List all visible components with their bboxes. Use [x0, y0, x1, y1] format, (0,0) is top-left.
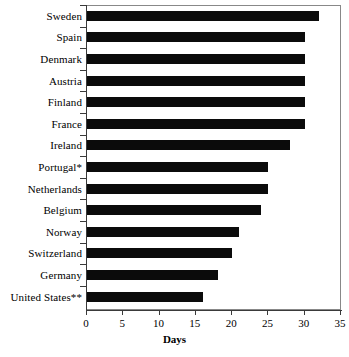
x-axis-tick-label: 10 [153, 317, 164, 330]
bar-category-label: Finland [48, 97, 82, 108]
y-axis-tick [80, 91, 86, 92]
x-axis-tick-label: 0 [83, 317, 89, 330]
y-axis-tick [80, 135, 86, 136]
x-axis-tick-label: 15 [189, 317, 200, 330]
bar [87, 76, 305, 86]
bar-row: Switzerland [0, 243, 349, 265]
bar-category-label: Ireland [50, 140, 82, 151]
y-axis-tick [80, 5, 86, 6]
bar-category-label: Switzerland [28, 248, 82, 259]
y-axis-tick [80, 221, 86, 222]
y-axis-tick [80, 199, 86, 200]
bar-chart: SwedenSpainDenmarkAustriaFinlandFranceIr… [0, 0, 349, 357]
bar-category-label: Norway [46, 226, 82, 237]
bar-row: Denmark [0, 48, 349, 70]
bar-category-label: Denmark [40, 53, 82, 64]
bar [87, 119, 305, 129]
x-axis-ticks [0, 310, 349, 311]
bar-row: United States** [0, 286, 349, 308]
bar [87, 184, 268, 194]
bar [87, 11, 319, 21]
y-axis-tick [80, 178, 86, 179]
bar-row: Sweden [0, 5, 349, 27]
bar-category-label: France [51, 118, 82, 129]
x-axis-tick [195, 310, 196, 315]
y-axis-tick [80, 156, 86, 157]
bar-category-label: Sweden [47, 10, 82, 21]
x-axis-tick [231, 310, 232, 315]
y-axis-tick [80, 27, 86, 28]
x-axis-tick-labels: 05101520253035 [0, 317, 349, 331]
bar-category-label: Spain [56, 32, 82, 43]
x-axis-title: Days [0, 333, 349, 345]
bar-category-label: United States** [11, 291, 82, 302]
x-axis-tick-label: 30 [298, 317, 309, 330]
bar-rows: SwedenSpainDenmarkAustriaFinlandFranceIr… [0, 5, 349, 310]
bar-row: Netherlands [0, 178, 349, 200]
y-axis-tick [80, 113, 86, 114]
bar-row: Austria [0, 70, 349, 92]
bar [87, 270, 218, 280]
x-axis-tick [159, 310, 160, 315]
y-axis-tick [80, 243, 86, 244]
bar-row: Belgium [0, 199, 349, 221]
bar-row: Norway [0, 221, 349, 243]
x-axis-tick [122, 310, 123, 315]
bar [87, 248, 232, 258]
bar-row: Finland [0, 91, 349, 113]
bar-category-label: Portugal* [38, 161, 82, 172]
bar-category-label: Belgium [43, 205, 82, 216]
x-axis-tick-label: 20 [226, 317, 237, 330]
bar-row: Ireland [0, 135, 349, 157]
bar [87, 97, 305, 107]
bar-row: Portugal* [0, 156, 349, 178]
bar [87, 205, 261, 215]
bar-category-label: Germany [40, 269, 82, 280]
bar-category-label: Austria [49, 75, 82, 86]
bar-category-label: Netherlands [28, 183, 82, 194]
bar-row: Germany [0, 264, 349, 286]
x-axis-tick [267, 310, 268, 315]
bar [87, 140, 290, 150]
chart-footnote [2, 349, 202, 357]
x-axis-tick [304, 310, 305, 315]
x-axis-tick-label: 5 [120, 317, 126, 330]
bar [87, 227, 239, 237]
x-axis-tick [86, 310, 87, 315]
y-axis-tick [80, 264, 86, 265]
y-axis-tick [80, 70, 86, 71]
x-axis-tick-label: 35 [335, 317, 346, 330]
y-axis-tick [80, 286, 86, 287]
y-axis-tick [80, 48, 86, 49]
bar [87, 162, 268, 172]
x-axis-tick [340, 310, 341, 315]
bar-row: Spain [0, 27, 349, 49]
x-axis-tick-label: 25 [262, 317, 273, 330]
bar [87, 54, 305, 64]
bar-row: France [0, 113, 349, 135]
bar [87, 32, 305, 42]
bar [87, 292, 203, 302]
